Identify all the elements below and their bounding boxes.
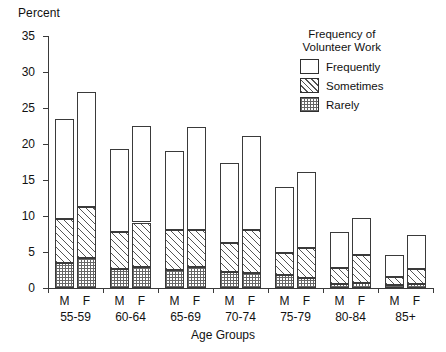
legend-item-rarely[interactable]: Rarely [300,97,384,112]
x-tick-label-80-84-F: F [358,294,365,308]
bar-segment-rarely [132,267,151,288]
table-row [165,151,184,288]
x-tick-4 [268,288,269,293]
x-tick-label-85+-F: F [413,294,420,308]
legend-title: Frequency of Volunteer Work [300,28,384,54]
x-axis-line [48,288,433,289]
table-row [330,232,349,288]
y-tick-label-10: 10 [22,209,35,223]
legend-item-frequently[interactable]: Frequently [300,59,384,74]
x-tick-label-55-59-F: F [83,294,90,308]
bar-segment-rarely [242,273,261,288]
y-tick-5: 5 [43,252,48,253]
bar-segment-sometimes [330,268,349,285]
bar-segment-frequently [407,235,426,269]
table-row [385,255,404,288]
bar-segment-rarely [187,267,206,288]
x-tick-3 [213,288,214,293]
legend-swatch-frequently [300,59,319,74]
bar-segment-frequently [132,126,151,222]
table-row [55,119,74,288]
x-tick-7 [433,288,434,293]
bar-segment-rarely [352,283,371,288]
y-tick-15: 15 [43,180,48,181]
x-tick-6 [378,288,379,293]
y-tick-label-20: 20 [22,137,35,151]
bar-segment-frequently [187,127,206,231]
x-tick-label-75-79-F: F [303,294,310,308]
x-group-label-55-59: 55-59 [60,310,91,324]
bar-segment-frequently [220,163,239,244]
legend-title-line-1: Frequency of [300,28,384,41]
bar-segment-sometimes [275,253,294,275]
x-tick-label-70-74-M: M [225,294,235,308]
y-tick-label-0: 0 [28,281,35,295]
bar-segment-rarely [110,269,129,288]
x-tick-label-85+-M: M [390,294,400,308]
bar-segment-rarely [220,272,239,288]
bar-segment-rarely [55,263,74,288]
legend-label-rarely: Rarely [326,99,359,111]
y-axis-title: Percent [18,6,60,20]
table-row [297,172,316,288]
x-tick-2 [158,288,159,293]
volunteer-work-bar-chart: Percent 05101520253035 MFMFMFMFMFMFMF55-… [0,0,446,352]
y-tick-label-15: 15 [22,173,35,187]
bar-segment-frequently [110,149,129,232]
x-tick-label-70-74-F: F [248,294,255,308]
y-tick-label-25: 25 [22,101,35,115]
table-row [275,187,294,288]
bar-segment-frequently [242,136,261,230]
table-row [132,126,151,288]
bar-segment-sometimes [352,255,371,283]
y-tick-label-30: 30 [22,65,35,79]
x-group-label-85+: 85+ [395,310,415,324]
bar-segment-rarely [77,258,96,288]
x-tick-0 [48,288,49,293]
legend-label-sometimes: Sometimes [326,80,384,92]
y-tick-label-35: 35 [22,29,35,43]
legend-item-sometimes[interactable]: Sometimes [300,78,384,93]
x-tick-label-75-79-M: M [280,294,290,308]
x-tick-label-65-69-F: F [193,294,200,308]
bar-segment-frequently [330,232,349,268]
x-tick-1 [103,288,104,293]
legend-label-frequently: Frequently [326,61,380,73]
x-group-label-60-64: 60-64 [115,310,146,324]
y-tick-25: 25 [43,108,48,109]
bar-segment-sometimes [77,207,96,258]
x-tick-5 [323,288,324,293]
table-row [77,92,96,288]
table-row [187,127,206,288]
x-tick-label-60-64-M: M [115,294,125,308]
bar-segment-rarely [407,284,426,288]
bar-segment-frequently [385,255,404,277]
table-row [242,136,261,288]
x-axis-title: Age Groups [0,328,446,342]
bar-segment-frequently [165,151,184,230]
bar-segment-frequently [55,119,74,219]
bar-segment-sometimes [55,219,74,263]
bar-segment-sometimes [242,230,261,272]
bar-segment-frequently [352,218,371,255]
bar-segment-sometimes [132,223,151,268]
bar-segment-sometimes [385,277,404,285]
x-group-label-70-74: 70-74 [225,310,256,324]
table-row [407,235,426,288]
bar-segment-frequently [297,172,316,248]
y-tick-10: 10 [43,216,48,217]
legend-swatch-sometimes [300,78,319,93]
bar-segment-frequently [275,187,294,253]
bar-segment-rarely [385,285,404,288]
legend-title-line-2: Volunteer Work [300,41,384,54]
x-group-label-75-79: 75-79 [280,310,311,324]
bar-segment-sometimes [407,269,426,285]
x-group-label-80-84: 80-84 [335,310,366,324]
x-tick-label-60-64-F: F [138,294,145,308]
bar-segment-rarely [275,275,294,288]
bar-segment-sometimes [297,248,316,278]
legend: Frequency of Volunteer Work FrequentlySo… [300,28,384,116]
y-tick-30: 30 [43,72,48,73]
bar-segment-frequently [77,92,96,206]
legend-entries: FrequentlySometimesRarely [300,59,384,112]
